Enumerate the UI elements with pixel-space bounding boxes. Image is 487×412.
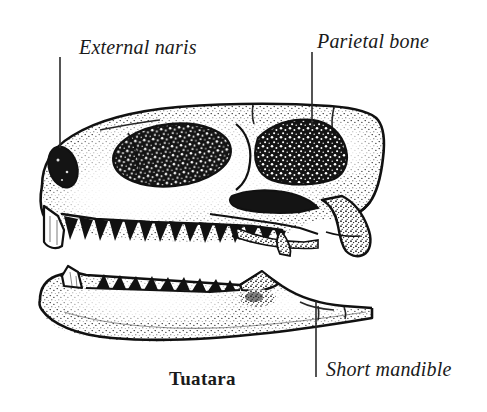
ectopterygoid-process [277,232,291,256]
tuatara-skull-figure: External naris Parietal bone Short mandi… [0,0,487,412]
coronoid-process [240,271,278,291]
figure-caption-tuatara: Tuatara [169,368,236,390]
coronoid-shading [240,289,276,307]
skull-illustration [0,0,487,412]
label-short-mandible: Short mandible [326,358,452,381]
mandible-group [30,265,390,350]
skull-group [30,95,400,256]
label-parietal-bone: Parietal bone [317,30,429,53]
label-external-naris: External naris [79,36,197,59]
